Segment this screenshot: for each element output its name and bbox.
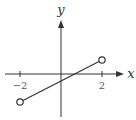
x-tick-label-neg2: −2 <box>13 80 28 91</box>
y-axis-arrow-icon <box>58 20 64 28</box>
x-tick-label-pos2: 2 <box>99 80 105 91</box>
x-axis-label: x <box>127 66 135 81</box>
x-axis-arrow-icon <box>116 71 124 77</box>
function-graph: −2 2 x y <box>0 0 136 120</box>
y-axis-label: y <box>56 2 65 17</box>
open-endpoint-left <box>17 99 23 105</box>
open-endpoint-right <box>99 57 105 63</box>
